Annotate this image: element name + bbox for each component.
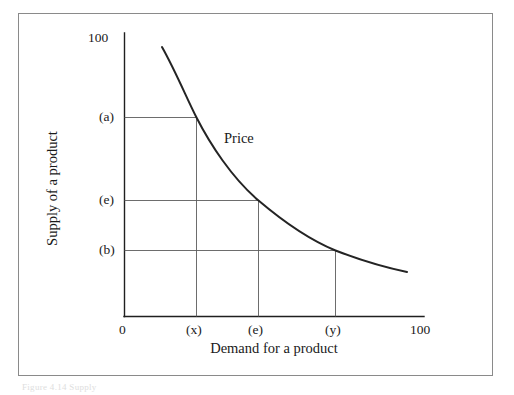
- x-tick-label-e: (e): [248, 322, 263, 338]
- y-tick-label-b: (b): [99, 242, 115, 258]
- x-tick-label-y: (y): [325, 322, 341, 338]
- figure-root: 100 (a) (e) (b) 0 (x) (e) (y) 100 Supply…: [0, 0, 514, 395]
- price-curve-label: Price: [224, 130, 254, 147]
- x-tick-label-100: 100: [410, 322, 430, 338]
- x-tick-label-0: 0: [119, 322, 126, 338]
- y-tick-label-e: (e): [99, 192, 114, 208]
- price-curve: [162, 47, 407, 272]
- y-axis-title: Supply of a product: [44, 99, 61, 279]
- y-tick-label-a: (a): [99, 109, 114, 125]
- x-axis-title: Demand for a product: [124, 340, 424, 357]
- x-tick-label-x: (x): [186, 322, 202, 338]
- caption-remnant: Figure 4.14 Supply: [22, 382, 97, 392]
- y-tick-label-100: 100: [88, 30, 108, 46]
